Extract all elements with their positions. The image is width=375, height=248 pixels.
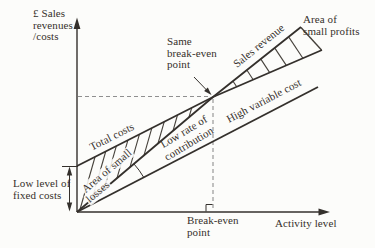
- same-break-even-label: Same break-even point: [167, 36, 217, 71]
- x-axis-arrow-icon: [319, 209, 331, 216]
- area-small-profits-label: Area of small profits: [303, 14, 360, 37]
- y-axis-arrow-icon: [74, 18, 81, 30]
- y-axis-label: £ Sales revenues /costs: [33, 8, 73, 43]
- same-break-even-arrow: [194, 77, 212, 95]
- right-angle-marker: [206, 205, 213, 212]
- low-fixed-costs-label: Low level of fixed costs: [13, 178, 70, 201]
- break-even-chart-figure: £ Sales revenues /costs Same break-even …: [0, 0, 375, 248]
- contribution-angle-arc: [134, 164, 144, 177]
- break-even-point-label: Break-even point: [187, 215, 239, 238]
- x-axis-label: Activity level: [275, 218, 337, 230]
